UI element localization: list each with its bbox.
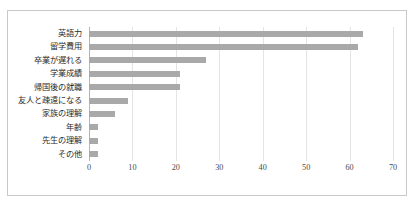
x-tick-label: 60 — [345, 163, 353, 172]
bar — [89, 138, 98, 144]
category-label: 学業成績 — [50, 67, 82, 80]
category-axis-labels: 英語力留学費用卒業が遅れる学業成績帰国後の就職友人と疎遠になる家族の理解年齢先生… — [8, 27, 86, 161]
bar-row — [89, 134, 393, 147]
bar — [89, 98, 128, 104]
x-tick-label: 30 — [215, 163, 223, 172]
bar-row — [89, 121, 393, 134]
category-label: 先生の理解 — [42, 134, 82, 147]
category-label: 帰国後の就職 — [34, 81, 82, 94]
gridline-70 — [393, 27, 394, 161]
bar — [89, 111, 115, 117]
plot-area — [89, 27, 393, 161]
bar-row — [89, 148, 393, 161]
bar — [89, 44, 358, 50]
category-label: 卒業が遅れる — [34, 54, 82, 67]
category-label: 留学費用 — [50, 40, 82, 53]
bar — [89, 31, 363, 37]
x-tick-label: 70 — [389, 163, 397, 172]
bar — [89, 84, 180, 90]
bar-row — [89, 94, 393, 107]
x-tick-label: 10 — [128, 163, 136, 172]
category-label: 家族の理解 — [42, 107, 82, 120]
x-tick-label: 0 — [87, 163, 91, 172]
bar — [89, 151, 98, 157]
x-tick-label: 40 — [259, 163, 267, 172]
bar — [89, 57, 206, 63]
chart-frame: 英語力留学費用卒業が遅れる学業成績帰国後の就職友人と疎遠になる家族の理解年齢先生… — [7, 10, 407, 196]
bar-row — [89, 107, 393, 120]
bar — [89, 124, 98, 130]
x-tick-label: 20 — [172, 163, 180, 172]
bar — [89, 71, 180, 77]
bar-row — [89, 54, 393, 67]
category-label: その他 — [58, 148, 82, 161]
bar-row — [89, 40, 393, 53]
category-label: 友人と疎遠になる — [18, 94, 82, 107]
category-label: 英語力 — [58, 27, 82, 40]
x-tick-label: 50 — [302, 163, 310, 172]
bar-row — [89, 27, 393, 40]
bar-row — [89, 81, 393, 94]
bar-row — [89, 67, 393, 80]
value-axis-tick-labels: 010203040506070 — [89, 163, 393, 179]
category-label: 年齢 — [66, 121, 82, 134]
